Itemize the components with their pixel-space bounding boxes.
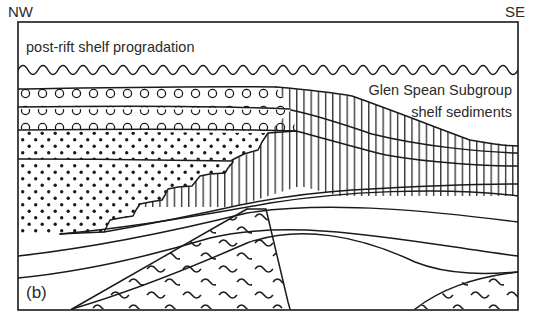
annotation-glen-spean-subgroup: Glen Spean Subgroup — [369, 82, 513, 98]
geological-cross-section: NW SE — [0, 0, 533, 316]
orientation-label-se: SE — [505, 3, 525, 20]
orientation-label-nw: NW — [8, 3, 34, 20]
annotation-shelf-sediments: shelf sediments — [411, 104, 512, 120]
panel-label: (b) — [26, 283, 47, 302]
annotation-post-rift-shelf-progradation: post-rift shelf progradation — [26, 39, 194, 55]
